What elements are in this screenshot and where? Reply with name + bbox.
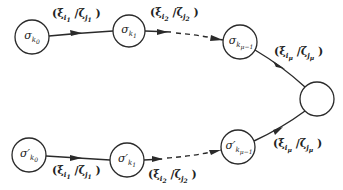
label-sep: /ζ — [167, 168, 181, 181]
node-subsub: 0 — [34, 156, 38, 163]
node-symbol: σ — [121, 23, 129, 36]
arrowhead-icon — [210, 35, 223, 41]
node-label-top-1: σk1 — [121, 24, 137, 39]
label-open: (ξ — [52, 7, 64, 20]
arrowhead-icon — [272, 61, 285, 69]
label-close: ) — [313, 137, 322, 150]
state-node-final — [300, 82, 334, 116]
node-label-bot-mu: σ′kμ−1 — [225, 140, 252, 155]
arrowhead-icon — [209, 150, 221, 155]
node-symbol: σ — [20, 147, 28, 160]
bottom-path — [46, 111, 305, 162]
label-close: ) — [190, 6, 199, 19]
label-open: (ξ — [273, 137, 285, 150]
node-subsub: 1 — [133, 32, 137, 39]
label-sep: /ζ — [292, 137, 306, 150]
label-close: ) — [92, 164, 101, 177]
edge-label-bot-2: (ξi2 /ζj2 ) — [148, 169, 197, 184]
arrowhead-icon — [70, 155, 82, 161]
node-subsub: μ−1 — [241, 43, 254, 50]
label-open: (ξ — [150, 6, 162, 19]
node-symbol: σ — [118, 152, 126, 165]
edge-label-top-mu: (ξiμ /ζjμ ) — [274, 46, 323, 61]
label-close: ) — [314, 45, 323, 58]
label-open: (ξ — [52, 164, 64, 177]
node-label-top-mu: σkμ−1 — [229, 35, 254, 50]
arrowhead-icon — [70, 30, 82, 36]
node-symbol: σ — [225, 139, 233, 152]
edge-top-0-to-1 — [49, 31, 113, 36]
edge-label-top-1: (ξi1 /ζj1 ) — [52, 8, 101, 23]
label-sep: /ζ — [169, 6, 183, 19]
node-symbol: σ — [229, 34, 237, 47]
node-subsub: μ−1 — [240, 148, 253, 155]
node-symbol: σ — [24, 29, 32, 42]
top-path — [49, 29, 305, 87]
label-sep: /ζ — [293, 45, 307, 58]
edge-label-bot-mu: (ξiμ /ζjμ ) — [273, 138, 322, 153]
label-open: (ξ — [148, 168, 160, 181]
label-close: ) — [92, 7, 101, 20]
edge-label-bot-1: (ξi1 /ζj1 ) — [52, 165, 101, 180]
arrowhead-icon — [152, 156, 163, 162]
node-label-bot-0: σ′k0 — [20, 148, 38, 163]
node-subsub: 1 — [132, 161, 136, 168]
label-close: ) — [188, 168, 197, 181]
node-subsub: 0 — [36, 38, 40, 45]
edge-label-top-2: (ξi2 /ζj2 ) — [150, 7, 199, 22]
node-label-bot-1: σ′k1 — [118, 153, 136, 168]
transition-path-diagram: σk0 σk1 σkμ−1 σ′k0 σ′k1 σ′kμ−1 (ξi1 /ζj1… — [0, 0, 343, 190]
label-open: (ξ — [274, 45, 286, 58]
label-sep: /ζ — [71, 7, 85, 20]
label-sep: /ζ — [71, 164, 85, 177]
arrowhead-icon — [157, 29, 168, 35]
diagram-canvas — [0, 0, 343, 190]
node-label-top-0: σk0 — [24, 30, 40, 45]
